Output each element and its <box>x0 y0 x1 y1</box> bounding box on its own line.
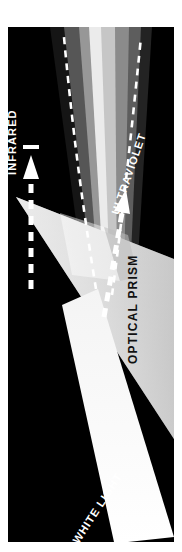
diagram-plate: INFRARED ULTRAVIOLET OPTICAL PRISM WHITE… <box>8 27 174 542</box>
diagram-canvas <box>8 27 174 542</box>
diagram-figure: INFRARED ULTRAVIOLET OPTICAL PRISM WHITE… <box>0 0 182 552</box>
